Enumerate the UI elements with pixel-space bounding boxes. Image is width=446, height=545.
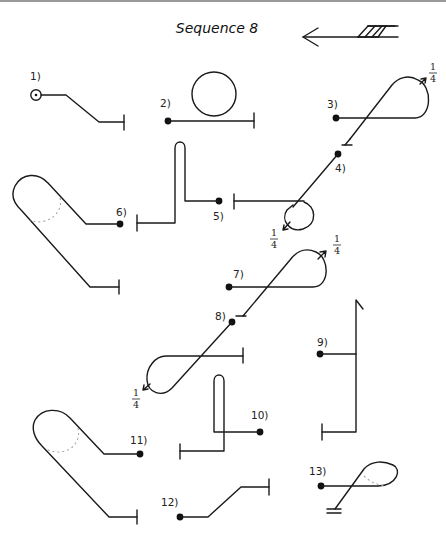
svg-text:4: 4 — [133, 399, 139, 410]
step-9: 9) — [317, 300, 363, 440]
svg-text:1: 1 — [334, 233, 340, 244]
svg-text:1: 1 — [133, 387, 139, 398]
step-label: 11) — [130, 434, 147, 446]
step-label: 8) — [215, 310, 226, 322]
svg-text:4: 4 — [334, 245, 340, 256]
step-8: 8) 1 4 — [132, 310, 243, 410]
diagram-title: Sequence 8 — [176, 20, 259, 36]
step-label: 4) — [335, 162, 346, 174]
svg-text:1: 1 — [271, 227, 277, 238]
step-label: 12) — [161, 496, 178, 508]
step-10: 10) — [180, 375, 268, 459]
step-label: 2) — [160, 97, 171, 109]
step-5: 5) — [137, 142, 224, 231]
svg-text:4: 4 — [430, 73, 436, 84]
sequence-diagram: Sequence 8 1) 2) 3) 1 4 — [0, 0, 446, 545]
step-13: 13) — [309, 462, 398, 513]
step-label: 6) — [116, 206, 127, 218]
step-label: 1) — [30, 70, 41, 82]
step-3: 3) 1 4 — [327, 61, 437, 145]
step-label: 10) — [251, 409, 268, 421]
step-12: 12) — [161, 479, 269, 520]
step-4: 4) 1 4 — [234, 151, 346, 250]
step-label: 9) — [317, 336, 328, 348]
direction-arrow-icon — [303, 26, 398, 46]
step-7: 7) 1 4 — [226, 233, 341, 316]
step-label: 3) — [327, 98, 338, 110]
step-label: 7) — [233, 268, 244, 280]
svg-text:1: 1 — [430, 61, 436, 72]
svg-text:4: 4 — [271, 239, 277, 250]
loop-circle-icon — [192, 72, 236, 116]
step-2: 2) — [160, 72, 254, 128]
step-label: 5) — [213, 210, 224, 222]
step-11: 11) — [33, 410, 147, 524]
step-1: 1) — [30, 70, 124, 130]
step-label: 13) — [309, 465, 326, 477]
step-6: 6) — [13, 175, 127, 294]
